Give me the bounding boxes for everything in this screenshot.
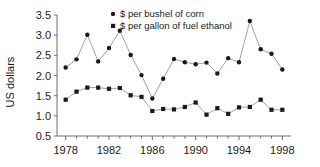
data-point bbox=[183, 60, 187, 64]
y-axis-label-group: US dollars bbox=[4, 56, 16, 107]
data-point bbox=[161, 77, 165, 81]
data-point bbox=[269, 108, 273, 112]
data-point bbox=[269, 52, 273, 56]
data-point bbox=[74, 90, 78, 94]
x-tick-label: 1978 bbox=[53, 144, 77, 156]
data-point bbox=[259, 98, 263, 102]
data-point bbox=[248, 19, 252, 23]
data-point bbox=[150, 96, 154, 100]
data-point bbox=[118, 86, 122, 90]
y-tick-label: 1.0 bbox=[36, 110, 51, 122]
data-point bbox=[85, 33, 89, 37]
data-point bbox=[194, 100, 198, 104]
data-point bbox=[183, 105, 187, 109]
x-tick-label: 1994 bbox=[227, 144, 251, 156]
data-point bbox=[204, 60, 208, 64]
legend-label: $ per bushel of corn bbox=[120, 8, 204, 19]
data-point bbox=[172, 57, 176, 61]
x-tick-label: 1986 bbox=[140, 144, 164, 156]
data-point bbox=[161, 107, 165, 111]
data-point bbox=[237, 60, 241, 64]
data-point bbox=[85, 86, 89, 90]
y-axis-title: US dollars bbox=[4, 56, 16, 107]
data-point bbox=[193, 62, 197, 66]
data-point bbox=[128, 53, 132, 57]
data-point bbox=[63, 65, 67, 69]
series-ethanol bbox=[64, 86, 285, 117]
x-axis-ticks: 197819821986199019941998 bbox=[53, 136, 294, 156]
data-point bbox=[215, 71, 219, 75]
chart-container: US dollars 0.51.01.52.02.53.03.5 1978198… bbox=[0, 0, 320, 167]
y-tick-label: 3.5 bbox=[36, 9, 51, 21]
y-tick-label: 0.5 bbox=[36, 130, 51, 142]
x-tick-label: 1990 bbox=[183, 144, 207, 156]
data-series-layer bbox=[63, 19, 284, 117]
y-axis-ticks: 0.51.01.52.02.53.03.5 bbox=[36, 9, 57, 142]
legend-marker bbox=[111, 24, 115, 28]
data-point bbox=[226, 112, 230, 116]
data-point bbox=[129, 93, 133, 97]
legend-label: $ per gallon of fuel ethanol bbox=[120, 20, 232, 31]
y-tick-label: 3.0 bbox=[36, 29, 51, 41]
data-point bbox=[150, 109, 154, 113]
x-tick-label: 1998 bbox=[270, 144, 294, 156]
data-point bbox=[258, 47, 262, 51]
data-point bbox=[280, 67, 284, 71]
data-point bbox=[74, 57, 78, 61]
data-point bbox=[226, 56, 230, 60]
line-chart: US dollars 0.51.01.52.02.53.03.5 1978198… bbox=[0, 0, 320, 167]
data-point bbox=[172, 107, 176, 111]
data-point bbox=[248, 105, 252, 109]
legend-marker bbox=[111, 12, 115, 16]
data-point bbox=[215, 106, 219, 110]
data-point bbox=[139, 95, 143, 99]
chart-legend: $ per bushel of corn$ per gallon of fuel… bbox=[111, 8, 232, 31]
data-point bbox=[96, 59, 100, 63]
y-tick-label: 1.5 bbox=[36, 90, 51, 102]
data-point bbox=[64, 98, 68, 102]
data-point bbox=[107, 87, 111, 91]
data-point bbox=[204, 113, 208, 117]
data-point bbox=[96, 86, 100, 90]
data-point bbox=[107, 46, 111, 50]
x-tick-label: 1982 bbox=[97, 144, 121, 156]
data-point bbox=[237, 105, 241, 109]
y-tick-label: 2.0 bbox=[36, 70, 51, 82]
data-point bbox=[280, 108, 284, 112]
y-tick-label: 2.5 bbox=[36, 49, 51, 61]
data-point bbox=[139, 73, 143, 77]
